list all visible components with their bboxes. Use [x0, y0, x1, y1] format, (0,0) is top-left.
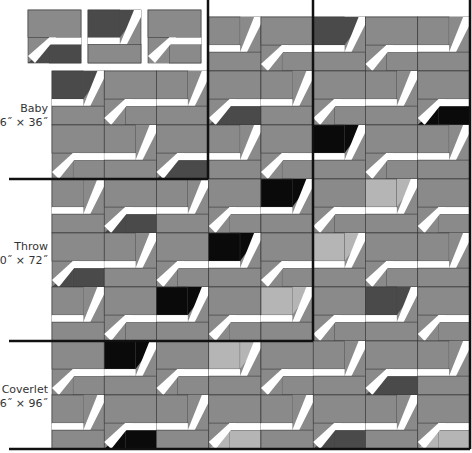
quilt-block: [366, 71, 418, 125]
quilt-block: [157, 71, 209, 125]
quilt-block: [313, 71, 365, 125]
size-name: Baby: [0, 102, 48, 116]
size-dimensions: 60˝ × 72˝: [0, 254, 48, 268]
quilt-block: [52, 287, 104, 341]
quilt-block: [418, 395, 470, 449]
quilt-block: [261, 71, 313, 125]
quilt-block: [418, 179, 470, 233]
quilt-block: [261, 179, 313, 233]
size-name: Coverlet: [0, 383, 48, 397]
quilt-block: [313, 179, 365, 233]
quilt-block: [418, 233, 470, 287]
quilt-block: [52, 71, 104, 125]
quilt-block: [104, 125, 156, 179]
quilt-block: [104, 71, 156, 125]
quilt-block: [52, 341, 104, 395]
quilt-block: [209, 341, 261, 395]
quilt-block: [28, 10, 81, 63]
quilt-block: [366, 17, 418, 71]
quilt-block: [88, 10, 141, 63]
quilt-block: [418, 17, 470, 71]
quilt-block: [148, 10, 201, 63]
quilt-block: [366, 287, 418, 341]
quilt-block: [418, 71, 470, 125]
quilt-block: [261, 125, 313, 179]
quilt-block: [418, 287, 470, 341]
quilt-block: [313, 125, 365, 179]
quilt-block: [313, 341, 365, 395]
size-dimensions: 36˝ × 36˝: [0, 116, 48, 130]
quilt-block: [209, 125, 261, 179]
quilt-block: [157, 341, 209, 395]
quilt-block: [209, 395, 261, 449]
size-label-coverlet: Coverlet 96˝ × 96˝: [0, 383, 48, 411]
quilt-block: [209, 287, 261, 341]
quilt-block: [313, 233, 365, 287]
quilt-block: [366, 233, 418, 287]
quilt-block: [157, 233, 209, 287]
quilt-block: [366, 125, 418, 179]
quilt-block: [209, 17, 261, 71]
quilt-block: [52, 395, 104, 449]
quilt-blocks: [52, 17, 470, 449]
quilt-block: [52, 179, 104, 233]
quilt-block: [261, 341, 313, 395]
quilt-block: [209, 71, 261, 125]
quilt-block: [261, 395, 313, 449]
quilt-block: [52, 233, 104, 287]
quilt-block: [418, 125, 470, 179]
quilt-block: [261, 233, 313, 287]
quilt-block: [313, 395, 365, 449]
quilt-block: [418, 341, 470, 395]
size-label-baby: Baby 36˝ × 36˝: [0, 102, 48, 130]
size-label-throw: Throw 60˝ × 72˝: [0, 240, 48, 268]
quilt-block: [104, 179, 156, 233]
quilt-block: [209, 179, 261, 233]
block-legend: [28, 10, 201, 63]
quilt-block: [366, 179, 418, 233]
quilt-block: [157, 179, 209, 233]
size-name: Throw: [0, 240, 48, 254]
quilt-block: [104, 395, 156, 449]
quilt-block: [157, 395, 209, 449]
quilt-block: [313, 287, 365, 341]
quilt-block: [261, 287, 313, 341]
quilt-block: [366, 395, 418, 449]
size-dimensions: 96˝ × 96˝: [0, 397, 48, 411]
quilt-diagram: [0, 0, 472, 453]
quilt-block: [209, 233, 261, 287]
quilt-block: [104, 341, 156, 395]
quilt-block: [104, 233, 156, 287]
quilt-block: [52, 125, 104, 179]
quilt-block: [261, 17, 313, 71]
quilt-block: [157, 287, 209, 341]
quilt-block: [104, 287, 156, 341]
quilt-block: [313, 17, 365, 71]
quilt-block: [157, 125, 209, 179]
quilt-block: [366, 341, 418, 395]
